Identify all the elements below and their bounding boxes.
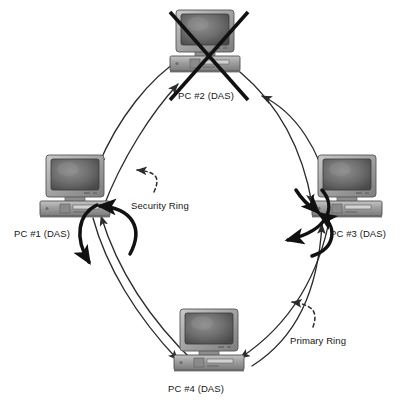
pc4-computer-icon: [174, 309, 244, 371]
pc3-wrap-arrows: [288, 190, 332, 256]
pc1-label: PC #1 (DAS): [14, 228, 70, 239]
pc4-label: PC #4 (DAS): [168, 383, 224, 394]
pc4-node[interactable]: [174, 309, 244, 371]
pc3-node[interactable]: [312, 155, 382, 217]
link-pc2-to-pc1: [98, 58, 182, 166]
link-pc2-to-pc3: [240, 72, 312, 204]
security-ring-label: Security Ring: [131, 200, 189, 211]
pc3-label: PC #3 (DAS): [330, 228, 386, 239]
pc1-node[interactable]: [40, 155, 110, 217]
security-ring-pointer-icon: [137, 170, 157, 192]
network-diagram: [0, 0, 409, 408]
primary-ring-label: Primary Ring: [290, 335, 346, 346]
pc2-label: PC #2 (DAS): [178, 90, 234, 101]
pc3-computer-icon: [312, 155, 382, 217]
link-pc1-to-pc2: [103, 84, 178, 208]
pc1-computer-icon: [40, 155, 110, 217]
callout-pointers: [137, 170, 315, 327]
diagram-canvas: PC #1 (DAS) PC #2 (DAS) PC #3 (DAS) PC #…: [0, 0, 409, 408]
